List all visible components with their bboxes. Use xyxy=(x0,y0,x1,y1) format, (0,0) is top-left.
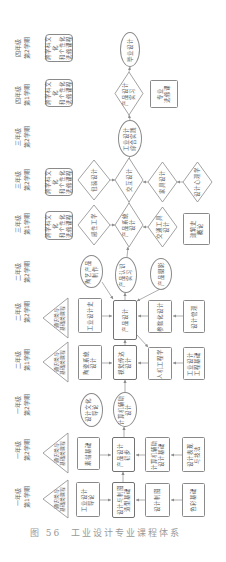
year-text: 四年级 xyxy=(13,80,22,110)
elective-box-3-1: 跨学科文化 和个性化 选修课程 xyxy=(45,211,73,240)
term-text: 第2学期 xyxy=(22,122,31,152)
general-course-triangle-2-2: 通识类与 基础类课程 xyxy=(43,298,68,338)
node-label: 设计文化 导论 xyxy=(85,398,99,422)
node-label: 工业设计 导论 xyxy=(81,488,95,512)
curriculum-diagram: 四年级第2学期 四年级第1学期 三年级第2学期 三年级第2学期 三年级第1学期 … xyxy=(10,25,215,525)
year-text: 二年级 xyxy=(13,297,22,327)
course-ceramic-product-making: 陶艺产品 制作 xyxy=(80,255,103,288)
node-label: 通识类与 基础类课程 xyxy=(54,487,66,512)
term-text: 第2学期 xyxy=(22,257,31,287)
course-design-culture-intro: 设计文化 导论 xyxy=(80,393,103,427)
node-label: 跨学科文化 和个性化 选修课程 xyxy=(45,169,73,195)
course-product-design-internship: 产品设计 实习 xyxy=(115,72,143,115)
course-product-design: 产品设计 xyxy=(113,300,137,340)
course-ceramic-system-design: 陶瓷系统 设计 xyxy=(78,345,102,380)
node-label: 跨学科文化 和个性化 选修课程 xyxy=(45,35,73,61)
node-label: 工业设计史 xyxy=(87,301,94,331)
node-label: 跨学科文化 和个性化 选修课程 xyxy=(45,212,73,239)
term-text: 第1学期 xyxy=(22,80,31,110)
course-cad-basics: 计算机辅助 设计基础 xyxy=(145,437,170,472)
course-product-design-preliminary: 产品设计 初步 xyxy=(112,437,135,472)
year-text: 一年级 xyxy=(13,390,22,420)
node-label: 建筑史 概论 xyxy=(190,220,204,238)
year-text: 三年级 xyxy=(13,122,22,152)
term-text: 第2学期 xyxy=(22,33,31,63)
course-color-basics: 色彩基础 xyxy=(182,483,205,517)
node-label: 设计与制图 造型基础 xyxy=(117,485,131,515)
semester-label: 三年级第2学期 xyxy=(13,122,35,152)
node-label: 计算机辅助 设计 xyxy=(118,395,132,425)
year-text: 三年级 xyxy=(13,209,22,239)
course-interaction-design: 交互设计 xyxy=(115,158,143,202)
course-engineering-basics: 工业设计 工程基础 xyxy=(183,347,205,380)
semester-label: 一年级第2学期 xyxy=(13,435,35,465)
year-text: 一年级 xyxy=(13,482,22,512)
course-vehicle-design: 交通工具 设计 xyxy=(148,207,177,247)
semester-label: 三年级第1学期 xyxy=(13,209,35,239)
node-label: 工业设计 综合实践 xyxy=(123,127,137,151)
year-text: 三年级 xyxy=(13,165,22,195)
course-design-psychology: 设计心理学 xyxy=(183,162,212,202)
course-product-photography: 产品摄影 xyxy=(150,258,172,290)
node-label: 人机工程学 xyxy=(157,349,164,379)
course-parametric-design: 参数化设计 xyxy=(148,300,172,333)
node-label: 产品认识 实习 xyxy=(119,263,133,287)
course-computer-aided-design: 计算机辅助 设计 xyxy=(113,392,137,427)
node-label: 通识类与 基础类课程 xyxy=(54,306,66,331)
node-label: 设计管理 xyxy=(191,305,198,329)
semester-label: 四年级第1学期 xyxy=(13,80,35,110)
node-label: 专业 选修课 xyxy=(157,85,171,103)
node-label: 视觉传达 设计 xyxy=(118,351,132,375)
node-label: 家具设计 xyxy=(159,170,166,194)
node-label: 通识类与 基础类课程 xyxy=(54,350,66,375)
node-label: 产品设计 初步 xyxy=(117,443,131,467)
course-packaging-design: 包装设计 xyxy=(78,160,110,200)
term-text: 第2学期 xyxy=(22,435,31,465)
node-label: 色彩基础 xyxy=(190,488,197,512)
course-design-drafting: 设计制图 xyxy=(145,483,170,517)
node-label: 毕业设计 xyxy=(127,38,134,62)
course-design-drawing-basics: 设计与制图 造型基础 xyxy=(112,482,135,518)
semester-label: 二年级第1学期 xyxy=(13,345,35,375)
node-label: 计算机辅助 设计基础 xyxy=(151,440,165,470)
node-label: 设计心理学 xyxy=(194,167,201,197)
elective-box-4-1: 跨学科文化 和个性化 选修课程 xyxy=(45,79,73,107)
course-visual-communication-design: 视觉传达 设计 xyxy=(113,345,137,380)
general-course-triangle-1-1: 通识类与 基础类课程 xyxy=(43,480,68,518)
figure-title: 工业设计专业课程体系 xyxy=(71,528,181,538)
year-text: 一年级 xyxy=(13,435,22,465)
node-label: 设计制图 xyxy=(154,488,161,512)
course-product-cognition-internship: 产品认识 实习 xyxy=(115,257,137,293)
term-text: 第2学期 xyxy=(22,297,31,327)
general-course-triangle-2-1: 通识类与 基础类课程 xyxy=(43,342,68,382)
course-design-expression: 设计表现 与技法 xyxy=(182,437,205,472)
node-label: 交互设计 xyxy=(126,168,133,192)
node-label: 产品设计 实习 xyxy=(122,82,136,106)
node-label: 设计表现 与技法 xyxy=(187,443,201,467)
general-course-triangle-1-2: 通识类与 基础类课程 xyxy=(43,433,68,473)
node-label: 陶艺产品 制作 xyxy=(85,260,99,284)
year-text: 二年级 xyxy=(13,345,22,375)
term-text: 第2学期 xyxy=(22,165,31,195)
course-product-system-design: 产品系统 设计 xyxy=(115,203,143,247)
semester-label: 三年级第2学期 xyxy=(13,165,35,195)
diagram-canvas: 四年级第2学期 四年级第1学期 三年级第2学期 三年级第2学期 三年级第1学期 … xyxy=(10,25,215,525)
node-label: 产品设计 xyxy=(122,308,129,332)
semester-label: 二年级第2学期 xyxy=(13,297,35,327)
course-graduation-design: 毕业设计 xyxy=(120,32,140,67)
node-label: 交通工具 设计 xyxy=(156,215,170,239)
node-label: 产品摄影 xyxy=(158,262,165,286)
course-kansei-engineering: 感性工学 xyxy=(78,205,110,245)
semester-label: 四年级第2学期 xyxy=(13,33,35,63)
semester-label: 二年级第2学期 xyxy=(13,257,35,287)
node-label: 产品系统 设计 xyxy=(122,213,136,237)
figure-number: 图 56 xyxy=(30,528,61,538)
elective-box-3-2: 跨学科文化 和个性化 选修课程 xyxy=(45,168,73,196)
semester-label: 一年级第2学期 xyxy=(13,390,35,420)
course-sketch-basics: 素描基础 xyxy=(77,437,100,470)
course-ergonomics: 人机工程学 xyxy=(148,347,172,380)
course-industrial-design-history: 工业设计史 xyxy=(78,298,102,333)
node-label: 跨学科文化 和个性化 选修课程 xyxy=(45,80,73,106)
term-text: 第1学期 xyxy=(22,482,31,512)
term-text: 第1学期 xyxy=(22,209,31,239)
